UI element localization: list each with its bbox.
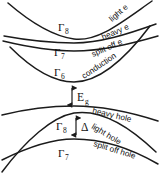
- label-spin-orbit: Δ: [81, 121, 88, 133]
- label-conduction-gamma6: Γ: [54, 66, 60, 78]
- label-conduction-gamma6-sub: 6: [61, 72, 65, 81]
- label-conduction-gamma7: Γ: [54, 46, 60, 58]
- label-valence-gamma7-sub: 7: [65, 153, 69, 162]
- curve-heavy-electron: [4, 24, 156, 43]
- curve-light-electron: [8, 1, 152, 39]
- band-structure-plot: Γ 8 Γ 7 Γ 6 Γ 8 Γ 7 E g Δ light e heavy …: [0, 0, 160, 174]
- label-conduction-gamma8: Γ: [58, 21, 64, 33]
- label-valence-gamma8: Γ: [56, 120, 62, 132]
- label-band-gap: E: [77, 91, 84, 103]
- label-conduction-gamma8-sub: 8: [65, 27, 69, 36]
- curve-light-hole: [2, 112, 156, 172]
- label-valence-gamma7: Γ: [58, 147, 64, 159]
- label-conduction-gamma7-sub: 7: [61, 52, 65, 61]
- curve-heavy-hole: [2, 106, 158, 121]
- band-structure-diagram: Γ 8 Γ 7 Γ 6 Γ 8 Γ 7 E g Δ light e heavy …: [0, 0, 160, 174]
- label-valence-gamma8-sub: 8: [63, 126, 67, 135]
- label-light-electron: light e: [107, 2, 130, 23]
- label-band-gap-sub: g: [85, 97, 89, 106]
